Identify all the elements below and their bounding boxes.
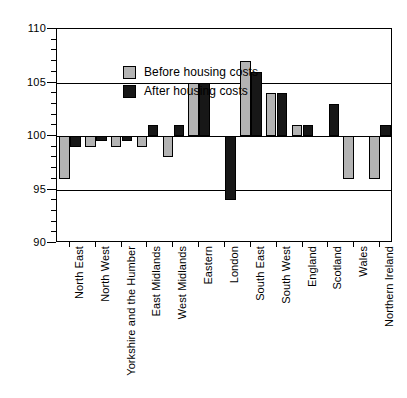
x-tick-label-wrap: England bbox=[306, 246, 318, 287]
legend-swatch-before-icon bbox=[123, 66, 136, 79]
bar-group bbox=[367, 29, 393, 241]
x-tick-label: Yorkshire and the Humber bbox=[125, 246, 137, 376]
bar bbox=[111, 136, 122, 147]
x-tick-label: Scotland bbox=[331, 246, 343, 290]
bar bbox=[303, 125, 314, 136]
x-tick-label: England bbox=[306, 246, 318, 287]
x-tick-label: East Midlands bbox=[150, 246, 162, 316]
bar bbox=[137, 136, 148, 147]
bar bbox=[292, 125, 303, 136]
bar-group bbox=[83, 29, 109, 241]
x-tick-label: Eastern bbox=[202, 246, 214, 285]
bar bbox=[225, 136, 236, 200]
bars-layer bbox=[57, 29, 391, 241]
bar-group bbox=[160, 29, 186, 241]
x-tick-label-wrap: North East bbox=[73, 246, 85, 299]
x-tick-label-wrap: Scotland bbox=[331, 246, 343, 290]
bar bbox=[380, 125, 391, 136]
x-tick-label-wrap: Yorkshire and the Humber bbox=[125, 246, 137, 376]
y-tick-label-105: 105 bbox=[6, 76, 46, 88]
bar bbox=[70, 136, 81, 147]
y-tick-label-90: 90 bbox=[6, 236, 46, 248]
bar bbox=[329, 104, 340, 136]
bar bbox=[174, 125, 185, 136]
bar bbox=[122, 136, 133, 141]
y-tick-major-100 bbox=[47, 135, 56, 136]
x-tick-label-wrap: South East bbox=[254, 246, 266, 301]
plot-area: Before housing costs After housing costs bbox=[56, 28, 392, 242]
x-tick-label-wrap: Northern Ireland bbox=[383, 246, 395, 327]
bar-group bbox=[109, 29, 135, 241]
bar-group bbox=[212, 29, 238, 241]
x-tick-label: Wales bbox=[357, 246, 369, 277]
legend-item-after: After housing costs bbox=[123, 84, 258, 98]
x-tick-label-wrap: Wales bbox=[357, 246, 369, 277]
y-tick-label-110: 110 bbox=[6, 22, 46, 34]
regional-income-bar-chart: 9095100105110 Before housing costs After… bbox=[0, 0, 407, 398]
x-tick-label: London bbox=[228, 246, 240, 283]
y-tick-label-100: 100 bbox=[6, 129, 46, 141]
bar bbox=[369, 136, 380, 179]
x-tick-label: Northern Ireland bbox=[383, 246, 395, 327]
legend-item-before: Before housing costs bbox=[123, 65, 258, 79]
x-tick-label-wrap: South West bbox=[280, 246, 292, 304]
y-tick-major-95 bbox=[47, 189, 56, 190]
x-tick-label: West Midlands bbox=[176, 246, 188, 319]
x-tick-label-wrap: Eastern bbox=[202, 246, 214, 285]
bar-group bbox=[135, 29, 161, 241]
bar bbox=[59, 136, 70, 179]
bar bbox=[277, 93, 288, 136]
legend-label-after: After housing costs bbox=[144, 84, 248, 98]
bar-group bbox=[341, 29, 367, 241]
x-tick-label-wrap: London bbox=[228, 246, 240, 283]
bar bbox=[85, 136, 96, 147]
bar bbox=[148, 125, 159, 136]
y-tick-label-95: 95 bbox=[6, 183, 46, 195]
y-tick-major-110 bbox=[47, 28, 56, 29]
x-tick-label-wrap: North West bbox=[99, 246, 111, 302]
y-tick-major-105 bbox=[47, 82, 56, 83]
x-tick-label: South West bbox=[280, 246, 292, 304]
bar-group bbox=[290, 29, 316, 241]
x-tick-label-wrap: East Midlands bbox=[150, 246, 162, 316]
x-tick-label-wrap: West Midlands bbox=[176, 246, 188, 319]
bar bbox=[343, 136, 354, 179]
x-tick-label: North West bbox=[99, 246, 111, 302]
x-tick-label: North East bbox=[73, 246, 85, 299]
bar bbox=[266, 93, 277, 136]
chart-legend: Before housing costs After housing costs bbox=[123, 65, 258, 98]
y-axis: 9095100105110 bbox=[0, 28, 56, 242]
x-axis-labels: North EastNorth WestYorkshire and the Hu… bbox=[56, 246, 392, 396]
bar bbox=[163, 136, 174, 157]
x-tick-label: South East bbox=[254, 246, 266, 301]
legend-swatch-after-icon bbox=[123, 85, 136, 98]
bar-group bbox=[238, 29, 264, 241]
bar-group bbox=[264, 29, 290, 241]
bar-group bbox=[57, 29, 83, 241]
y-tick-major-90 bbox=[47, 242, 56, 243]
bar-group bbox=[186, 29, 212, 241]
legend-label-before: Before housing costs bbox=[144, 65, 258, 79]
bar bbox=[96, 136, 107, 141]
bar-group bbox=[315, 29, 341, 241]
